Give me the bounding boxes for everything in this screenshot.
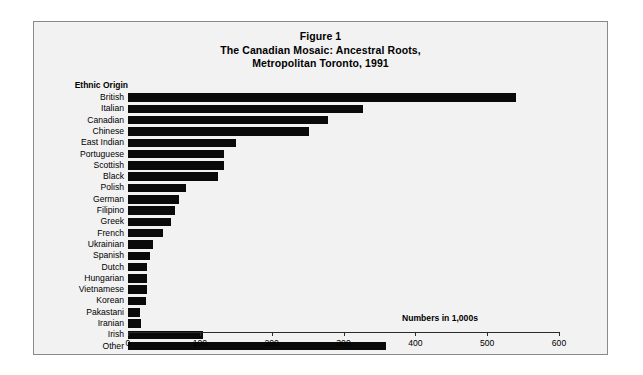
bar — [128, 285, 147, 294]
bar — [128, 263, 147, 272]
axis-tick-label: 0 — [126, 338, 131, 348]
bar — [128, 93, 516, 102]
bar-row: Vietnamese — [128, 284, 559, 295]
bar — [128, 240, 153, 249]
axis-tick — [559, 332, 560, 336]
bar — [128, 127, 309, 136]
axis-tick — [487, 332, 488, 336]
title-line-2: The Canadian Mosaic: Ancestral Roots, — [34, 44, 607, 58]
category-label: Vietnamese — [79, 284, 124, 295]
bar-row: Portuguese — [128, 149, 559, 160]
bar — [128, 206, 175, 215]
category-label: Scottish — [93, 160, 124, 171]
bar — [128, 172, 218, 181]
category-label: French — [97, 228, 124, 239]
figure-container: Figure 1 The Canadian Mosaic: Ancestral … — [0, 0, 643, 375]
bar-row: Ukrainian — [128, 239, 559, 250]
bar-row: Dutch — [128, 262, 559, 273]
bar — [128, 218, 171, 227]
category-label: Chinese — [92, 126, 124, 137]
bar-row: Italian — [128, 103, 559, 114]
bar-row: Scottish — [128, 160, 559, 171]
category-label: Hungarian — [84, 273, 124, 284]
axis-tick — [200, 332, 201, 336]
bar-row: German — [128, 194, 559, 205]
axis-tick — [272, 332, 273, 336]
category-label: Spanish — [93, 250, 124, 261]
chart-panel: Figure 1 The Canadian Mosaic: Ancestral … — [33, 21, 608, 355]
category-label: Filipino — [97, 205, 124, 216]
bar — [128, 297, 146, 306]
axis-tick-label: 600 — [552, 338, 566, 348]
category-label: Canadian — [87, 115, 124, 126]
bar — [128, 161, 224, 170]
bar — [128, 308, 140, 317]
axis-tick — [344, 332, 345, 336]
axis-tick-label: 500 — [480, 338, 494, 348]
category-label: Italian — [101, 103, 124, 114]
title-line-3: Metropolitan Toronto, 1991 — [34, 57, 607, 71]
axis-tick-label: 300 — [336, 338, 350, 348]
axis-tick — [415, 332, 416, 336]
bar-row: Filipino — [128, 205, 559, 216]
category-label: Portuguese — [80, 149, 124, 160]
category-label: Ukrainian — [88, 239, 124, 250]
axis-tick-label: 400 — [408, 338, 422, 348]
title-line-1: Figure 1 — [34, 30, 607, 44]
bar-row: Black — [128, 171, 559, 182]
category-label: Polish — [101, 182, 124, 193]
bar-row: Iranian — [128, 318, 559, 329]
bar-row: Pakastani — [128, 307, 559, 318]
bar-row: Polish — [128, 182, 559, 193]
category-label: Iranian — [98, 318, 124, 329]
bar-row: French — [128, 228, 559, 239]
units-annotation: Numbers in 1,000s — [402, 313, 478, 323]
bar — [128, 116, 328, 125]
bar — [128, 252, 150, 261]
bar-row: Greek — [128, 216, 559, 227]
category-label: German — [93, 194, 124, 205]
category-label: Other — [103, 341, 125, 352]
category-label: Dutch — [102, 262, 124, 273]
bar — [128, 139, 236, 148]
bar-row: Korean — [128, 295, 559, 306]
bar-row: Spanish — [128, 250, 559, 261]
category-label: Greek — [101, 216, 124, 227]
category-label: Irish — [108, 329, 124, 340]
category-axis-heading: Ethnic Origin — [34, 80, 128, 90]
axis-tick-label: 100 — [193, 338, 207, 348]
axis-tick-label: 200 — [264, 338, 278, 348]
category-label: British — [100, 92, 124, 103]
bar — [128, 150, 224, 159]
bar-row: Chinese — [128, 126, 559, 137]
bar — [128, 195, 179, 204]
category-label: Pakastani — [86, 307, 124, 318]
bar — [128, 229, 163, 238]
category-label: Korean — [96, 295, 124, 306]
bar-row: Canadian — [128, 115, 559, 126]
figure-title: Figure 1 The Canadian Mosaic: Ancestral … — [34, 30, 607, 71]
bar-row: East Indian — [128, 137, 559, 148]
bar-row: British — [128, 92, 559, 103]
bar — [128, 105, 363, 114]
axis-tick — [128, 332, 129, 336]
plot-area: BritishItalianCanadianChineseEast Indian… — [128, 92, 559, 332]
bar — [128, 184, 186, 193]
bar — [128, 274, 147, 283]
bar-row: Hungarian — [128, 273, 559, 284]
category-label: Black — [103, 171, 124, 182]
category-label: East Indian — [81, 137, 124, 148]
bar — [128, 319, 141, 328]
